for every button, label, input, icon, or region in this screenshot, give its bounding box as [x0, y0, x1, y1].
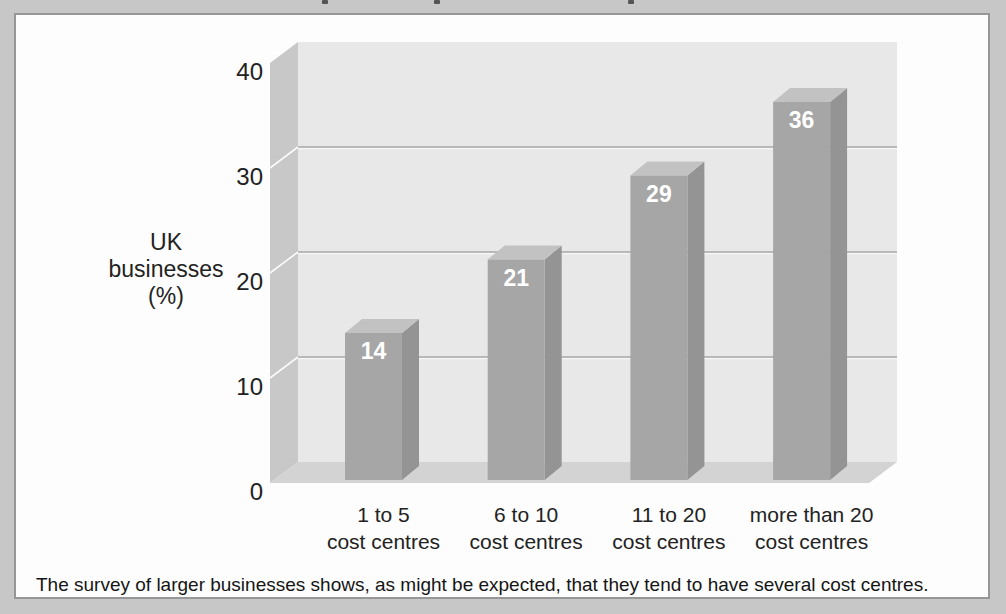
x-category-label-line: 1 to 5 [357, 503, 410, 526]
y-axis-title-line: (%) [148, 283, 184, 309]
x-category-label-line: 6 to 10 [494, 503, 558, 526]
x-category-label-line: cost centres [755, 530, 868, 553]
y-axis-tick-labels: 010203040 [236, 58, 263, 505]
bar-side-face [402, 319, 419, 480]
x-category-label-line: cost centres [470, 530, 583, 553]
bar-side-face [687, 162, 704, 481]
bar-value-label: 29 [646, 181, 672, 207]
y-axis-title-line: UK [150, 229, 183, 255]
y-tick-label: 20 [236, 268, 263, 295]
bar [630, 176, 687, 481]
page: 14212936 010203040 1 to 5cost centres6 t… [0, 0, 1006, 614]
y-tick-label: 40 [236, 58, 263, 85]
figure-caption: The survey of larger businesses shows, a… [36, 573, 976, 596]
x-category-label-line: more than 20 [750, 503, 874, 526]
y-tick-label: 30 [236, 163, 263, 190]
y-axis-title: UKbusinesses(%) [108, 229, 223, 309]
y-tick-label: 0 [250, 478, 263, 505]
x-axis-category-labels: 1 to 5cost centres6 to 10cost centres11 … [327, 503, 874, 553]
y-axis-title-line: businesses [108, 256, 223, 282]
bar-value-label: 36 [789, 107, 815, 133]
y-tick-label: 10 [236, 373, 263, 400]
bar-side-face [545, 246, 562, 481]
bar-value-label: 14 [361, 338, 387, 364]
bar [773, 102, 830, 480]
bar-value-label: 21 [503, 265, 529, 291]
x-category-label-line: cost centres [612, 530, 725, 553]
bar-side-face [830, 88, 847, 480]
x-category-label-line: cost centres [327, 530, 440, 553]
x-category-label-line: 11 to 20 [632, 503, 706, 526]
bar [488, 260, 545, 481]
bar-chart: 14212936 010203040 1 to 5cost centres6 t… [0, 0, 1006, 614]
